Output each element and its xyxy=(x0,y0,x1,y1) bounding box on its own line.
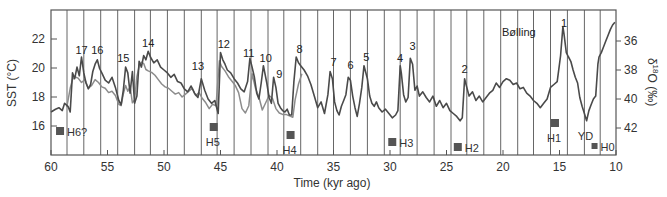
x-tick-label: 25 xyxy=(440,160,454,174)
event-label: 13 xyxy=(192,60,204,72)
event-label: 2 xyxy=(462,63,468,75)
heinrich-label: H2 xyxy=(465,142,479,154)
event-label: 12 xyxy=(218,38,230,50)
y-tick-label-right: 38 xyxy=(624,63,638,77)
x-tick-label: 55 xyxy=(101,160,115,174)
y-tick-label-left: 16 xyxy=(32,119,46,133)
y-tick-label-right: 42 xyxy=(624,121,638,135)
event-label: 7 xyxy=(330,56,336,68)
y-axis-right-title-rest: O (‰) xyxy=(645,73,659,106)
heinrich-marker xyxy=(551,119,559,127)
heinrich-marker xyxy=(210,123,218,131)
heinrich-label: H4 xyxy=(283,144,297,156)
x-tick-label: 10 xyxy=(609,160,623,174)
heinrich-marker xyxy=(454,143,462,151)
x-tick-label: 50 xyxy=(157,160,171,174)
heinrich-marker xyxy=(388,138,396,146)
y-tick-label-right: 40 xyxy=(624,92,638,106)
heinrich-label: H0 xyxy=(601,141,615,153)
x-tick-label: 60 xyxy=(44,160,58,174)
event-label: 14 xyxy=(142,37,154,49)
event-label: 10 xyxy=(260,52,272,64)
event-label: 4 xyxy=(397,52,403,64)
event-label: 1 xyxy=(561,17,567,29)
heinrich-marker xyxy=(592,143,598,149)
x-axis-title: Time (kyr ago) xyxy=(294,176,371,190)
dansgaard-oeschger-chart: 6055504540353025201510 16182022 36384042… xyxy=(0,0,667,197)
x-tick-label: 45 xyxy=(214,160,228,174)
heinrich-event-markers: H6?H5H4H3H2H1H0 xyxy=(56,119,615,156)
y-axis-right-title: δ18O (‰) xyxy=(645,58,660,106)
heinrich-label: H1 xyxy=(547,132,561,144)
x-axis: 6055504540353025201510 xyxy=(44,150,623,174)
x-tick-label: 15 xyxy=(553,160,567,174)
annotation-label: YD xyxy=(578,130,593,142)
event-label: 6 xyxy=(347,59,353,71)
event-label: 3 xyxy=(410,40,416,52)
y-tick-label-left: 22 xyxy=(32,32,46,46)
event-label: 9 xyxy=(276,68,282,80)
x-tick-label: 30 xyxy=(383,160,397,174)
y-axis-left-title: SST (°C) xyxy=(5,59,19,107)
event-label: 16 xyxy=(91,44,103,56)
heinrich-label: H6? xyxy=(67,126,87,138)
x-tick-label: 35 xyxy=(327,160,341,174)
y-axis-left: 16182022 xyxy=(32,32,57,133)
event-label: 8 xyxy=(297,43,303,55)
y-tick-label-right: 36 xyxy=(624,34,638,48)
heinrich-label: H5 xyxy=(206,136,220,148)
event-label: Bølling xyxy=(502,26,536,38)
y-axis-right: 36384042 xyxy=(616,34,638,135)
event-label: 15 xyxy=(117,52,129,64)
heinrich-marker xyxy=(56,127,64,135)
heinrich-marker xyxy=(287,131,295,139)
heinrich-label: H3 xyxy=(399,137,413,149)
event-label: 11 xyxy=(243,47,254,59)
annotations: YD xyxy=(578,130,593,142)
event-label: 17 xyxy=(75,44,87,56)
event-label: 5 xyxy=(363,51,369,63)
x-tick-label: 20 xyxy=(496,160,510,174)
x-tick-label: 40 xyxy=(270,160,284,174)
y-tick-label-left: 20 xyxy=(32,61,46,75)
y-tick-label-left: 18 xyxy=(32,90,46,104)
